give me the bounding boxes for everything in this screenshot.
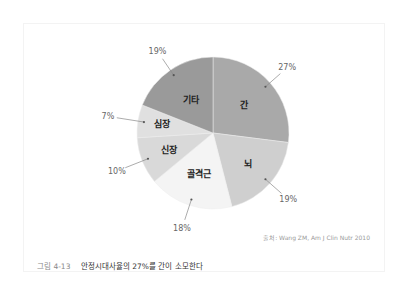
percent-label: 10%: [108, 167, 126, 176]
leader-dot: [264, 86, 266, 88]
figure-title: 안정시대사율의 27%를 간이 소모한다: [81, 262, 203, 271]
percent-label: 7%: [102, 112, 115, 121]
percent-label: 18%: [173, 224, 191, 233]
source-note: 출처: Wang ZM, Am J Clin Nutr 2010: [240, 233, 370, 242]
slice-label: 기타: [183, 94, 200, 105]
leader-dot: [143, 121, 145, 123]
pie-slices: [137, 57, 289, 209]
slice-label: 골격근: [187, 168, 212, 179]
slice-label: 신장: [161, 144, 178, 155]
leader-dot: [190, 198, 192, 200]
slice-label: 뇌: [244, 158, 252, 169]
leader-line: [265, 179, 281, 193]
slice-label: 심장: [154, 118, 171, 129]
leader-dot: [173, 74, 175, 76]
percent-label: 27%: [278, 63, 296, 72]
leader-dot: [147, 158, 149, 160]
figure-caption: 그림 4-13 안정시대사율의 27%를 간이 소모한다: [37, 260, 203, 271]
percent-label: 19%: [279, 195, 297, 204]
slice-label: 간: [240, 99, 249, 110]
pie-chart: 간뇌골격근신장심장기타 27%19%18%10%7%19%: [0, 0, 407, 297]
leader-dot: [264, 178, 266, 180]
percent-label: 19%: [149, 47, 167, 56]
figure-number: 그림 4-13: [37, 262, 70, 271]
